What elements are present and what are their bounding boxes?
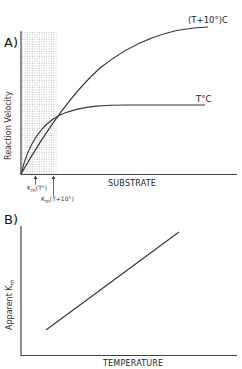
- panel-b: B) Apparent Km TEMPERATURE: [4, 212, 237, 368]
- panel-a-x-label: SUBSTRATE: [108, 179, 156, 188]
- km-t-plus-10-arrowhead-icon: [52, 176, 56, 180]
- km-t-plus-10-label: Km(T+10°): [41, 195, 74, 204]
- apparent-km-line: [46, 232, 179, 330]
- km-t-arrowhead-icon: [34, 176, 38, 180]
- figure: A) (T+10°)C T°C Reaction Velocity Km(T°)…: [0, 0, 242, 369]
- panel-b-x-label: TEMPERATURE: [102, 359, 163, 368]
- low-substrate-shaded-region: [22, 32, 57, 174]
- km-t-label: Km(T°): [27, 184, 47, 193]
- panel-b-y-label: Apparent Km: [5, 279, 15, 330]
- curve-t-label: T°C: [195, 94, 211, 104]
- curve-t-plus-10-label: (T+10°)C: [188, 15, 228, 25]
- panel-b-label: B): [4, 212, 18, 227]
- panel-a-y-label: Reaction Velocity: [4, 91, 13, 160]
- panel-a-label: A): [4, 35, 18, 50]
- panel-a: A) (T+10°)C T°C Reaction Velocity Km(T°)…: [4, 15, 237, 204]
